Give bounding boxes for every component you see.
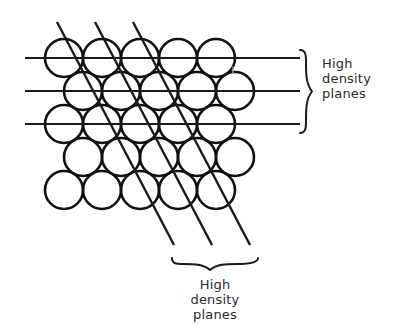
atom: [216, 138, 254, 176]
atom: [83, 171, 121, 209]
right-label-line-1: High: [322, 56, 402, 71]
right-brace-icon: [300, 50, 312, 133]
bottom-plane-label: High density planes: [155, 277, 275, 322]
right-label-line-2: density: [322, 71, 402, 86]
bottom-label-line-1: High: [155, 277, 275, 292]
crystal-plane-diagram: High density planes High density planes: [0, 0, 406, 331]
bottom-brace-icon: [172, 258, 258, 270]
bottom-label-line-3: planes: [155, 307, 275, 322]
right-plane-label: High density planes: [322, 56, 402, 101]
right-label-line-3: planes: [322, 86, 402, 101]
bottom-label-line-2: density: [155, 292, 275, 307]
atom: [45, 171, 83, 209]
atom: [64, 138, 102, 176]
